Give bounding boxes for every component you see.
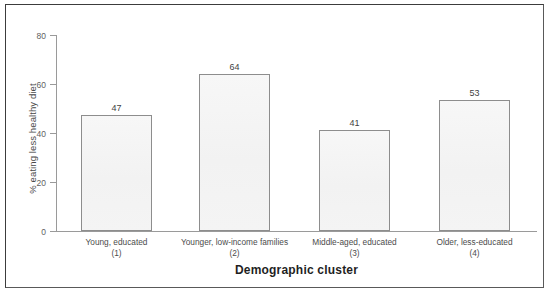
bar-young-educated[interactable]: 47 [81, 115, 152, 231]
bar-younger-low-income-families[interactable]: 64 [199, 74, 270, 231]
bar-value-label-2: 41 [320, 119, 389, 128]
x-axis-category-3-index: (4) [394, 248, 544, 259]
x-axis-category-1-name: Younger, low-income families [181, 237, 288, 247]
x-axis-line [56, 231, 537, 232]
y-axis-title: % eating less healthy diet [27, 39, 38, 239]
x-axis-category-3-name: Older, less-educated [436, 237, 512, 247]
x-axis-category-3: Older, less-educated (4) [394, 237, 544, 259]
y-axis-tick-label-80: 80 [37, 31, 46, 40]
y-axis-tick-80: 80 [50, 35, 56, 36]
y-axis-tick-60: 60 [50, 84, 56, 85]
chart-figure: 0 20 40 60 80 % eating less healthy diet… [5, 4, 544, 288]
x-axis-category-2-name: Middle-aged, educated [312, 237, 396, 247]
bar-value-label-1: 64 [200, 63, 269, 72]
y-axis-line [56, 35, 57, 232]
y-axis-tick-label-20: 20 [37, 178, 46, 187]
bar-value-label-0: 47 [82, 104, 151, 113]
bar-middle-aged-educated[interactable]: 41 [319, 130, 390, 231]
x-axis-title: Demographic cluster [56, 263, 537, 277]
y-axis-tick-label-60: 60 [37, 80, 46, 89]
y-axis-tick-label-40: 40 [37, 129, 46, 138]
bar-older-less-educated[interactable]: 53 [439, 100, 510, 231]
bar-value-label-3: 53 [440, 89, 509, 98]
y-axis-tick-0: 0 [50, 231, 56, 232]
x-axis-category-0-name: Young, educated [86, 237, 148, 247]
y-axis-tick-40: 40 [50, 133, 56, 134]
y-axis-tick-20: 20 [50, 182, 56, 183]
y-axis-tick-label-0: 0 [41, 227, 46, 236]
